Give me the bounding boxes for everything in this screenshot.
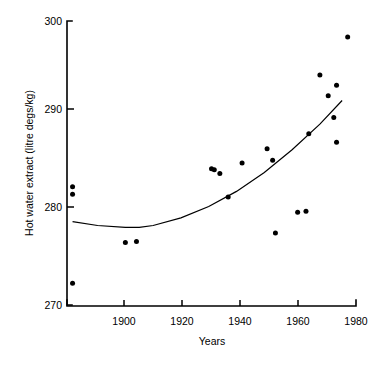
x-tick-label-1920: 1920 [170,315,194,327]
data-point [331,115,336,120]
data-point [326,93,331,98]
y-tick-label-290: 290 [44,103,62,115]
x-tick-label-1980: 1980 [344,315,368,327]
data-point [303,209,308,214]
data-point [306,131,311,136]
y-axis-line [67,21,72,305]
data-point [270,158,275,163]
y-tick-label-280: 280 [44,201,62,213]
data-point [70,192,75,197]
data-points [70,35,350,286]
data-point [217,171,222,176]
data-point [70,184,75,189]
data-point [212,167,217,172]
x-tick-label-1900: 1900 [112,315,136,327]
data-point [317,72,322,77]
x-tick-label-1940: 1940 [228,315,252,327]
y-tick-label-270: 270 [44,299,62,311]
y-axis: 300 290 280 270 Hot water extract (litre… [23,15,74,311]
data-point [295,210,300,215]
y-tick-label-300: 300 [44,15,62,27]
x-axis-line [67,300,356,306]
chart-figure: 300 290 280 270 Hot water extract (litre… [0,0,381,368]
data-point [134,239,139,244]
x-axis-ticks [124,300,298,306]
data-point [70,281,75,286]
data-point [123,240,128,245]
data-point [265,146,270,151]
data-point [240,161,245,166]
x-tick-label-1960: 1960 [286,315,310,327]
x-axis: 1900 1920 1940 1960 1980 Years [67,300,368,347]
trend-curve [73,101,343,228]
y-axis-title: Hot water extract (litre degs/kg) [23,90,35,236]
data-point [226,195,231,200]
x-axis-title: Years [199,335,225,347]
scatter-plot: 300 290 280 270 Hot water extract (litre… [0,0,381,368]
data-point [273,231,278,236]
data-point [345,35,350,40]
data-point [334,140,339,145]
data-point [334,83,339,88]
